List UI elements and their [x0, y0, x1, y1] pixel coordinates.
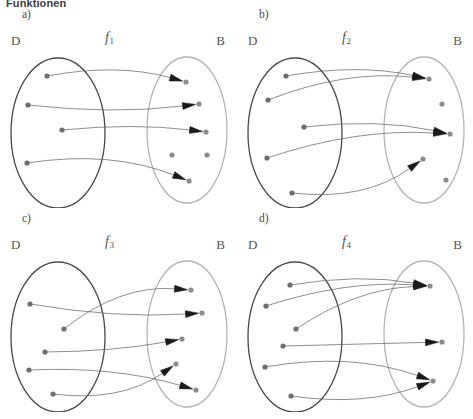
arrowhead-icon — [185, 311, 198, 318]
mapping-edge — [286, 70, 413, 76]
domain-element-dot — [265, 97, 270, 102]
domain-element-dot — [44, 73, 49, 78]
codomain-element-dot — [179, 336, 184, 341]
codomain-ellipse — [147, 261, 227, 407]
mapping-diagram — [237, 8, 473, 208]
arrowhead-icon — [169, 74, 182, 81]
domain-element-dot — [42, 349, 47, 354]
arrowhead-icon — [408, 161, 421, 171]
codomain-element-dot — [204, 152, 209, 157]
arrowhead-icon — [416, 382, 429, 390]
codomain-element-dot — [173, 361, 178, 366]
domain-element-dot — [262, 364, 267, 369]
mapping-diagram — [237, 212, 473, 412]
domain-element-dot — [287, 282, 292, 287]
domain-element-dot — [25, 102, 30, 107]
domain-element-dot — [263, 303, 268, 308]
arrowhead-icon — [172, 172, 185, 180]
domain-element-dot — [264, 155, 269, 160]
arrowhead-icon — [165, 339, 178, 346]
mapping-edge — [47, 70, 170, 78]
mapping-edge — [266, 284, 414, 306]
domain-ellipse — [248, 58, 342, 208]
codomain-element-dot — [426, 76, 431, 81]
domain-ellipse — [11, 262, 105, 412]
codomain-element-dot — [443, 177, 448, 182]
mapping-edge — [265, 361, 417, 375]
domain-element-dot — [280, 343, 285, 348]
codomain-element-dot — [427, 283, 432, 288]
domain-element-dot — [59, 127, 64, 132]
mapping-edge — [28, 105, 183, 110]
codomain-element-dot — [186, 178, 191, 183]
codomain-element-dot — [447, 131, 452, 136]
domain-element-dot — [27, 301, 32, 306]
domain-element-dot — [301, 124, 306, 129]
arrowhead-icon — [416, 372, 429, 380]
domain-element-dot — [283, 73, 288, 78]
codomain-element-dot — [169, 152, 174, 157]
mapping-edge — [62, 126, 190, 130]
mapping-edge — [30, 304, 186, 315]
codomain-element-dot — [199, 310, 204, 315]
mapping-edge — [291, 387, 418, 400]
panel-b: b)DBf2 — [237, 8, 473, 208]
codomain-element-dot — [193, 387, 198, 392]
mapping-diagram — [0, 212, 236, 412]
mapping-edge — [267, 132, 434, 158]
domain-element-dot — [293, 326, 298, 331]
domain-ellipse — [11, 58, 105, 208]
arrowhead-icon — [160, 366, 173, 376]
mapping-edge — [53, 373, 162, 396]
arrowhead-icon — [189, 127, 202, 134]
arrowhead-icon — [174, 285, 187, 292]
codomain-element-dot — [439, 101, 444, 106]
mapping-edge — [304, 123, 434, 130]
functions-figure: Funktionen a)DBf1b)DBf2c)DBf3d)DBf4 — [0, 0, 473, 419]
domain-element-dot — [26, 367, 31, 372]
codomain-element-dot — [183, 79, 188, 84]
codomain-element-dot — [430, 378, 435, 383]
arrowhead-icon — [425, 339, 438, 346]
codomain-element-dot — [203, 129, 208, 134]
domain-element-dot — [289, 190, 294, 195]
domain-element-dot — [24, 160, 29, 165]
codomain-element-dot — [439, 339, 444, 344]
panel-a: a)DBf1 — [0, 8, 236, 208]
panel-c: c)DBf3 — [0, 212, 236, 412]
codomain-element-dot — [420, 156, 425, 161]
domain-element-dot — [50, 391, 55, 396]
domain-element-dot — [288, 393, 293, 398]
panel-d: d)DBf4 — [237, 212, 473, 412]
mapping-diagram — [0, 8, 236, 208]
codomain-element-dot — [196, 101, 201, 106]
mapping-edge — [283, 342, 426, 346]
arrowhead-icon — [179, 382, 192, 389]
domain-element-dot — [61, 326, 66, 331]
arrowhead-icon — [182, 103, 195, 110]
mapping-edge — [64, 288, 175, 329]
codomain-element-dot — [188, 287, 193, 292]
